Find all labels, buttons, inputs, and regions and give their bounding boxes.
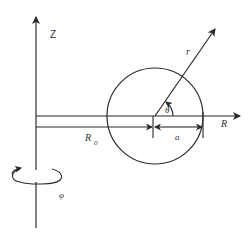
toroidal-angle-label: φ [59, 190, 64, 200]
radial-coordinate-label: r [186, 46, 190, 57]
major-radius-label: R 0 [84, 132, 98, 147]
minor-radius-label: a [175, 132, 180, 142]
radial-vector-r [155, 29, 215, 116]
svg-text:R: R [84, 132, 91, 143]
z-axis-label: Z [50, 29, 56, 40]
svg-text:0: 0 [94, 139, 98, 147]
poloidal-angle-label: θ [165, 105, 170, 115]
r-axis-label: R [220, 118, 227, 129]
toroidal-rotation-arrow [12, 168, 62, 184]
torus-coordinate-diagram: Z r θ R R 0 a φ [0, 0, 250, 241]
